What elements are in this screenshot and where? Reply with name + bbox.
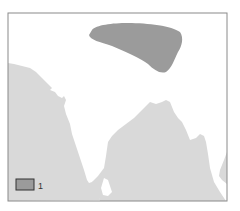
legend-label-1: 1 [38,181,43,191]
legend-swatch-1 [16,179,34,190]
legend: 1 [16,179,43,191]
map: 1 [0,0,240,211]
